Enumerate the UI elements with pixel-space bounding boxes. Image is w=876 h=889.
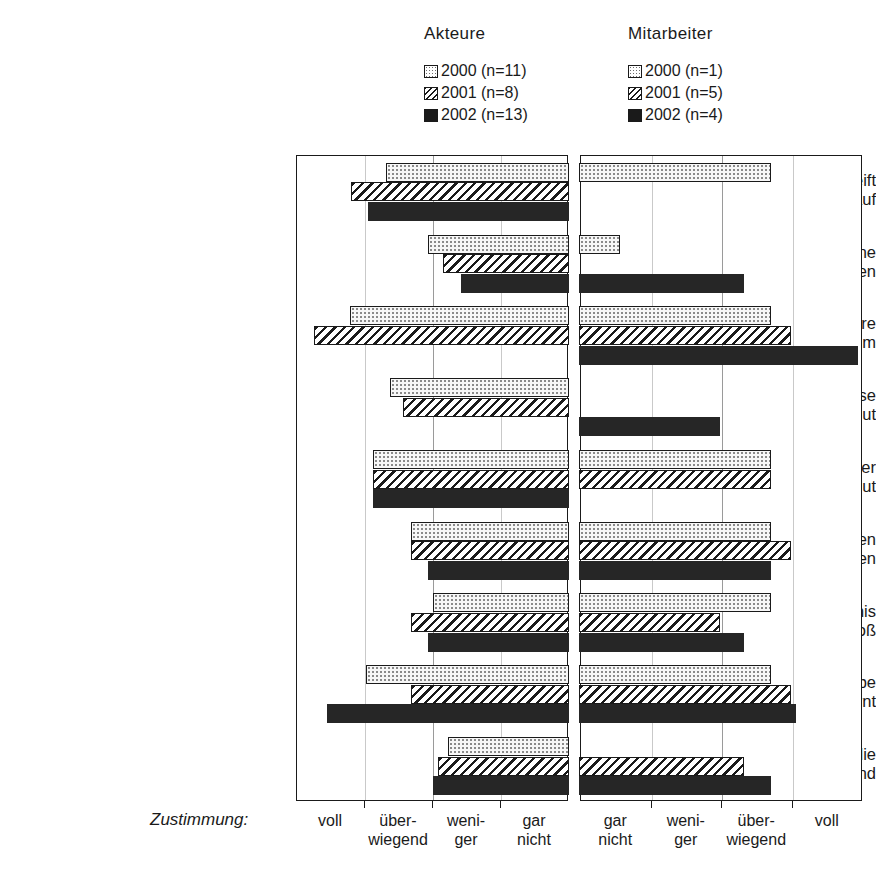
bar-2002 xyxy=(368,202,569,221)
legend-item-mitarbeiter-2001: 2001 (n=5) xyxy=(628,84,723,102)
bar-2002 xyxy=(373,489,569,508)
axis-tick-label: über- wiegend xyxy=(364,811,432,849)
bar-2002 xyxy=(428,633,569,652)
gridline xyxy=(365,156,366,800)
axis-tick-label: über- wiegend xyxy=(721,811,792,849)
axis-tick xyxy=(721,801,722,808)
hatched-square-icon xyxy=(424,87,438,100)
bar-2001 xyxy=(579,613,720,632)
axis-tick-label: weni- ger xyxy=(651,811,722,849)
axis-tick xyxy=(651,801,652,808)
legend-label-mitarbeiter-2001: 2001 (n=5) xyxy=(645,84,723,102)
hatched-square-icon xyxy=(628,87,642,100)
bar-2001 xyxy=(411,613,569,632)
bar-2001 xyxy=(579,541,791,560)
legend-title-akteure: Akteure xyxy=(424,24,528,44)
bar-2000 xyxy=(579,522,771,541)
legend-item-mitarbeiter-2002: 2002 (n=4) xyxy=(628,106,723,124)
gridline xyxy=(793,156,794,800)
bar-2001 xyxy=(438,757,569,776)
legend-item-akteure-2002: 2002 (n=13) xyxy=(424,106,528,124)
bar-2001 xyxy=(579,685,791,704)
axis-tick-label: weni- ger xyxy=(432,811,500,849)
bar-2000 xyxy=(579,163,771,182)
filled-square-icon xyxy=(628,109,642,122)
legend-akteure: Akteure 2000 (n=11) 2001 (n=8) 2002 (n=1… xyxy=(424,24,528,124)
bar-2002 xyxy=(579,704,795,723)
bar-2000 xyxy=(579,593,771,612)
legend-item-akteure-2001: 2001 (n=8) xyxy=(424,84,528,102)
bar-2000 xyxy=(448,737,569,756)
bar-2002 xyxy=(579,346,857,365)
bar-2002 xyxy=(579,274,743,293)
bar-2001 xyxy=(403,398,568,417)
bar-2002 xyxy=(579,417,720,436)
dotted-square-icon xyxy=(424,65,438,78)
legend-title-mitarbeiter: Mitarbeiter xyxy=(628,24,723,44)
legend-label-mitarbeiter-2002: 2002 (n=4) xyxy=(645,106,723,124)
axis-tick-label: voll xyxy=(296,811,364,830)
legend-label-akteure-2000: 2000 (n=11) xyxy=(441,62,527,80)
axis-tick xyxy=(364,801,365,808)
filled-square-icon xyxy=(424,109,438,122)
bar-2001 xyxy=(411,541,569,560)
axis-tick xyxy=(500,801,501,808)
bar-2001 xyxy=(314,326,569,345)
axis-tick-label: gar nicht xyxy=(500,811,568,849)
bar-2002 xyxy=(428,561,569,580)
axis-tick-label: voll xyxy=(792,811,863,830)
bar-2002 xyxy=(327,704,568,723)
axis-caption: Zustimmung: xyxy=(150,810,248,830)
plot-panel-mitarbeiter xyxy=(580,155,862,801)
legend-label-mitarbeiter-2000: 2000 (n=1) xyxy=(645,62,723,80)
bar-2001 xyxy=(373,470,569,489)
bar-2000 xyxy=(373,450,569,469)
legend-mitarbeiter: Mitarbeiter 2000 (n=1) 2001 (n=5) 2002 (… xyxy=(628,24,723,124)
legend-item-mitarbeiter-2000: 2000 (n=1) xyxy=(628,62,723,80)
dotted-square-icon xyxy=(628,65,642,78)
bar-2000 xyxy=(428,235,569,254)
bar-2001 xyxy=(579,326,791,345)
bar-2000 xyxy=(579,450,771,469)
bar-2001 xyxy=(579,470,771,489)
bar-2000 xyxy=(579,235,620,254)
bar-2000 xyxy=(386,163,568,182)
bar-2002 xyxy=(579,561,771,580)
bar-2000 xyxy=(579,665,771,684)
bar-2001 xyxy=(443,254,569,273)
axis-tick xyxy=(792,801,793,808)
bar-2001 xyxy=(411,685,569,704)
bar-2001 xyxy=(579,757,743,776)
legend-label-akteure-2002: 2002 (n=13) xyxy=(441,106,528,124)
bar-2000 xyxy=(411,522,569,541)
bar-2000 xyxy=(579,306,771,325)
legend-label-akteure-2001: 2001 (n=8) xyxy=(441,84,519,102)
axis-tick-label: gar nicht xyxy=(580,811,651,849)
bar-2002 xyxy=(579,633,743,652)
bar-2002 xyxy=(579,776,771,795)
legend-item-akteure-2000: 2000 (n=11) xyxy=(424,62,528,80)
bar-2000 xyxy=(366,665,569,684)
bar-2002 xyxy=(461,274,568,293)
bar-2002 xyxy=(433,776,569,795)
bar-2000 xyxy=(433,593,569,612)
axis-tick xyxy=(432,801,433,808)
chart-root: Akteure 2000 (n=11) 2001 (n=8) 2002 (n=1… xyxy=(0,0,876,889)
bar-2000 xyxy=(390,378,568,397)
plot-panel-akteure xyxy=(296,155,568,801)
bar-2000 xyxy=(350,306,569,325)
bar-2001 xyxy=(351,182,569,201)
